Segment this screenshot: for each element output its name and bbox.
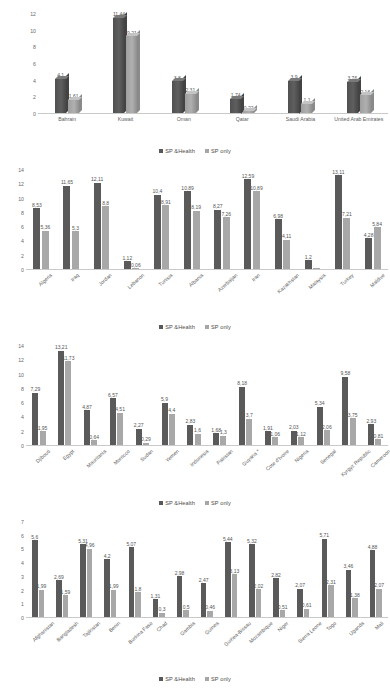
bar-sp-only[interactable]: 3,13	[232, 574, 238, 617]
bar-sp-only[interactable]: 3,75	[350, 418, 356, 445]
bar-sp-health[interactable]: 7,29	[32, 393, 38, 445]
bar-sp-health[interactable]: 5,32	[249, 544, 255, 617]
bar-sp-health[interactable]: 2,47	[201, 583, 207, 617]
bar-sp-health[interactable]: 10,4	[154, 195, 161, 269]
bar-sp-health[interactable]: 6,98	[275, 219, 282, 269]
bar-sp-only[interactable]: 5,36	[42, 231, 49, 269]
bar-value-label: 5,9	[161, 396, 168, 402]
bar-sp-only[interactable]: 1,1	[301, 104, 312, 113]
bar-sp-only[interactable]: 10,89	[253, 191, 260, 269]
bar-sp-health[interactable]: 12,59	[244, 179, 251, 269]
bar-value-label: 7,21	[342, 211, 352, 217]
bar-sp-only[interactable]: 8,8	[102, 206, 109, 269]
bar-sp-health[interactable]: 10,89	[184, 191, 191, 269]
bar-sp-only[interactable]: 2,16	[360, 95, 371, 113]
bar-group: 1,310,3	[153, 522, 165, 617]
bar-sp-only[interactable]: 1,99	[39, 590, 45, 617]
bar-group: 13,2111,73	[58, 346, 71, 445]
bar-sp-only[interactable]: 11,73	[65, 361, 71, 445]
bar-sp-health[interactable]: 2,98	[177, 576, 183, 617]
bar-sp-only[interactable]: 1,06	[272, 437, 278, 445]
bar-sp-health[interactable]: 3,76	[347, 82, 358, 113]
bar-sp-health[interactable]: 1,31	[153, 599, 159, 617]
bar-sp-only[interactable]: 1,8	[135, 592, 141, 617]
bar-sp-only[interactable]: 1,3	[220, 436, 226, 445]
bar-sp-health[interactable]: 1,2	[305, 260, 312, 269]
bar-sp-only[interactable]: 8,91	[162, 205, 169, 269]
bar-sp-health[interactable]: 8,53	[33, 208, 40, 269]
bar-sp-only[interactable]: 0,5	[183, 610, 189, 617]
bar-sp-health[interactable]: 5,31	[80, 544, 86, 617]
bar-sp-only[interactable]: 4,51	[117, 413, 123, 445]
bar-sp-health[interactable]: 11,44	[113, 18, 124, 113]
bar-sp-health[interactable]: 11,65	[63, 186, 70, 269]
bar-sp-only[interactable]: 0,81	[375, 439, 381, 445]
legend-item-sp-health: SP &Health	[159, 500, 195, 506]
bar-sp-only[interactable]: 4,96	[87, 549, 93, 617]
bar-sp-only[interactable]: 5,3	[72, 231, 79, 269]
bar-sp-only[interactable]: 0,06	[132, 268, 139, 269]
bar-sp-health[interactable]: 2,83	[187, 425, 193, 445]
bar-sp-health[interactable]: 8,27	[214, 210, 221, 269]
bar-sp-health[interactable]: 1,68	[213, 433, 219, 445]
bar-sp-health[interactable]: 6,57	[110, 398, 116, 445]
bar-wrapper: 1,31	[153, 522, 159, 617]
bar-sp-only[interactable]: 2,06	[324, 430, 330, 445]
bar-sp-only[interactable]: 3,7	[246, 419, 252, 445]
bar-sp-only[interactable]: 0,64	[91, 440, 97, 445]
bar-sp-only[interactable]: 8,19	[193, 211, 200, 270]
x-axis-tick-label: Benin	[107, 620, 121, 633]
bar-sp-health[interactable]: 12,11	[94, 183, 101, 270]
x-axis-tick-label: Saudi Arabia	[286, 116, 315, 123]
bar-sp-health[interactable]: 3,8	[172, 81, 183, 113]
bar-sp-health[interactable]: 2,69	[56, 580, 62, 617]
x-axis-tick-label: Morocco	[112, 448, 131, 466]
bar-wrapper: 8,8	[102, 170, 109, 269]
bar-sp-only[interactable]: 0,3	[159, 613, 165, 617]
bar-sp-only[interactable]: 0,22	[243, 111, 254, 113]
bar-sp-only[interactable]: 1,12	[298, 437, 304, 445]
bar-sp-health[interactable]: 5,9	[162, 403, 168, 445]
bar-value-label: 5,84	[372, 221, 382, 227]
bar-sp-only[interactable]: 0,29	[143, 443, 149, 445]
bar-sp-health[interactable]: 3,9	[288, 81, 299, 114]
bar-sp-health[interactable]: 4,28	[365, 238, 372, 269]
bar-sp-only[interactable]: 1,38	[352, 598, 358, 617]
bar-sp-health[interactable]: 5,07	[129, 547, 135, 617]
bar-sp-only[interactable]: 0,61	[304, 609, 310, 617]
bar-wrapper: 2,16	[360, 14, 371, 113]
bar-sp-only[interactable]: 1,95	[40, 431, 46, 445]
bar-sp-health[interactable]: 13,11	[335, 175, 342, 269]
bar-sp-only[interactable]: 9,21	[126, 36, 137, 113]
bar-sp-health[interactable]: 5,44	[225, 542, 231, 617]
bar-sp-only[interactable]: 0,46	[207, 611, 213, 617]
bar-sp-health[interactable]: 5,6	[32, 540, 38, 617]
legend-swatch-icon	[205, 325, 209, 329]
bar-sp-only[interactable]: 7,26	[223, 217, 230, 269]
bar-sp-only[interactable]: 4,11	[283, 240, 290, 269]
bar-sp-health[interactable]: 1,74	[230, 99, 241, 114]
bar-sp-only[interactable]: 4,4	[169, 414, 175, 445]
bar-sp-only[interactable]: 0,51	[280, 610, 286, 617]
bar-sp-health[interactable]: 8,18	[239, 387, 245, 445]
bar-sp-only[interactable]: 2,31	[185, 94, 196, 113]
bar-sp-only[interactable]	[313, 268, 320, 269]
bar-value-label: 1,61	[69, 93, 79, 99]
legend-label: SP &Health	[165, 500, 195, 506]
bar-sp-only[interactable]: 2,07	[376, 589, 382, 617]
bar-sp-only[interactable]: 5,84	[374, 227, 381, 269]
bar-sp-only[interactable]: 1,6	[195, 434, 201, 445]
bar-sp-health[interactable]: 13,21	[58, 351, 64, 445]
bar-sp-only[interactable]: 1,99	[111, 590, 117, 617]
bar-sp-only[interactable]: 1,61	[68, 100, 79, 113]
y-tick-label: 8	[21, 386, 24, 392]
bar-sp-only[interactable]: 7,21	[343, 218, 350, 270]
bar-sp-health[interactable]: 2,82	[273, 578, 279, 617]
bar-sp-health[interactable]: 1,12	[124, 261, 131, 269]
bar-value-label: 1,95	[38, 425, 48, 431]
bar-sp-only[interactable]: 2,02	[256, 589, 262, 617]
bar-sp-only[interactable]: 2,31	[328, 585, 334, 617]
bar-value-label: 3,13	[229, 568, 239, 574]
bar-sp-only[interactable]: 1,59	[63, 595, 69, 617]
bar-sp-health[interactable]: 4,1	[55, 79, 66, 113]
